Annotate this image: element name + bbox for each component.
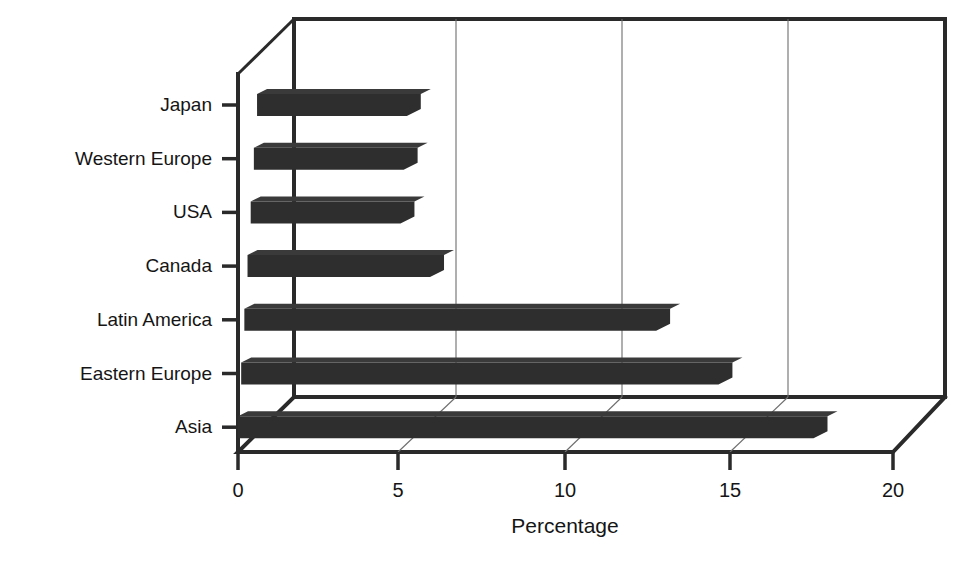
bar-canada (248, 250, 454, 277)
category-label: Latin America (97, 309, 213, 330)
category-label: Canada (145, 255, 212, 276)
x-tick-label: 20 (882, 479, 904, 501)
category-label: Japan (160, 94, 212, 115)
bar-japan (257, 89, 431, 116)
bar-front-face (254, 148, 418, 170)
bar-front-face (251, 201, 415, 223)
category-label: Asia (175, 416, 212, 437)
bar-top-face (244, 304, 680, 309)
bar-chart-3d: JapanWestern EuropeUSACanadaLatin Americ… (0, 0, 959, 562)
bar-top-face (251, 196, 425, 201)
bar-front-face (241, 363, 732, 385)
category-label: Western Europe (75, 148, 212, 169)
chart-background (0, 0, 959, 562)
chart-container: JapanWestern EuropeUSACanadaLatin Americ… (0, 0, 959, 562)
bar-top-face (254, 143, 428, 148)
bar-front-face (248, 255, 444, 277)
bar-western-europe (254, 143, 428, 170)
bar-front-face (257, 94, 421, 116)
bar-eastern-europe (241, 358, 742, 385)
bar-front-face (238, 416, 828, 438)
x-tick-label: 15 (719, 479, 741, 501)
bar-asia (238, 411, 838, 438)
bar-front-face (244, 309, 670, 331)
category-label: Eastern Europe (80, 363, 212, 384)
x-tick-label: 0 (232, 479, 243, 501)
bar-top-face (241, 358, 742, 363)
bar-usa (251, 196, 425, 223)
x-axis-title: Percentage (511, 514, 618, 537)
bar-latin-america (244, 304, 680, 331)
category-label: USA (173, 201, 212, 222)
bar-top-face (248, 250, 454, 255)
bar-top-face (238, 411, 838, 416)
x-tick-label: 5 (392, 479, 403, 501)
x-tick-label: 10 (554, 479, 576, 501)
bar-top-face (257, 89, 431, 94)
